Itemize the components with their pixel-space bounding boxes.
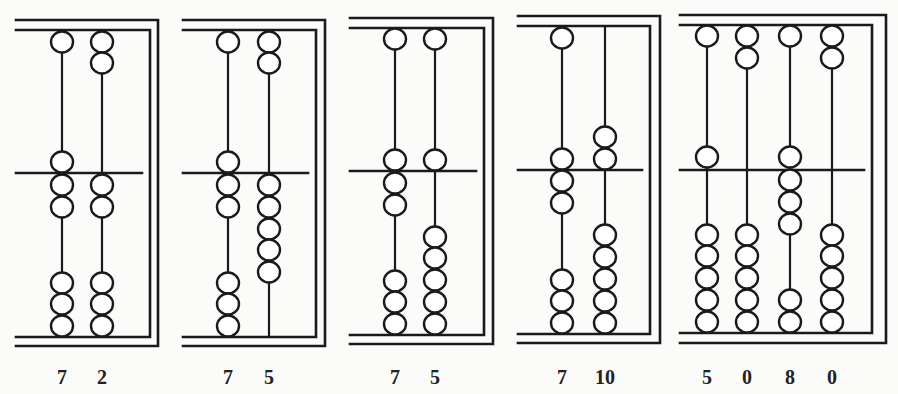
abacus-bead [384,150,406,171]
abacus-bead [258,175,280,196]
abacus-bead [594,225,616,246]
abacus-bead [779,214,801,235]
abacus-bead [821,246,843,267]
abacus-bead [736,26,758,47]
abacus-bead [258,53,280,74]
column-value-label: 7 [390,366,400,389]
abacus-frame [518,16,660,343]
abacus-bead [696,246,718,267]
abacus-bead [91,175,113,196]
abacus-bead [51,152,73,173]
abacus-column [551,26,573,334]
abacus-bead [551,149,573,170]
abacus-column [696,25,718,333]
abacus-column [821,25,843,333]
abacus-bead [779,170,801,191]
abacus-bead [217,152,239,173]
abacus-bead [217,316,239,337]
abacus-bead [384,271,406,292]
abacus-bead [91,197,113,218]
abacus-bead [779,290,801,311]
abacus-bead [551,193,573,214]
abacus-bead [424,227,446,248]
abacus-bead [696,225,718,246]
abacus-2 [183,20,325,346]
abacus-frame [183,20,325,346]
abacus-bead [696,26,718,47]
abacus-column [594,26,616,334]
abacus-column [779,25,801,333]
abacus-bead [551,313,573,334]
abacus-bead [384,173,406,194]
abacus-bead [821,290,843,311]
abacus-bead [736,290,758,311]
abacus-bead [51,175,73,196]
abacus-bead [779,147,801,168]
abacus-bead [696,312,718,333]
abacus-bead [594,313,616,334]
abacus-column [736,25,758,333]
abacus-bead [736,48,758,69]
abacus-bead [696,147,718,168]
abacus-bead [696,268,718,289]
column-value-label: 2 [97,366,107,389]
abacus-bead [91,53,113,74]
column-value-label: 7 [57,366,67,389]
abacus-bead [821,48,843,69]
abacus-bead [594,291,616,312]
abacus-bead [821,225,843,246]
abacus-bead [51,32,73,53]
abacus-bead [736,225,758,246]
abacus-column [424,28,446,335]
abacus-bead [91,316,113,337]
column-value-label: 7 [223,366,233,389]
column-value-label: 8 [785,366,795,389]
abacus-bead [258,219,280,240]
column-value-label: 10 [595,366,615,389]
abacus-bead [217,273,239,294]
abacus-bead [594,149,616,170]
abacus-frame [350,18,493,344]
column-value-label: 0 [742,366,752,389]
abacus-bead [424,150,446,171]
abacus-column [91,30,113,337]
abacus-bead [258,262,280,283]
abacus-bead [51,273,73,294]
abacus-bead [384,314,406,335]
abacus-bead [424,248,446,269]
abacus-bead [779,312,801,333]
abacus-bead [217,175,239,196]
abacus-bead [551,291,573,312]
abacus-1 [16,20,158,346]
abacus-5 [680,15,886,343]
abacus-bead [736,312,758,333]
abacus-bead [594,269,616,290]
abacus-frame [16,20,158,346]
abacus-bead [51,316,73,337]
abacus-bead [736,246,758,267]
abacus-bead [551,28,573,49]
abacus-bead [736,268,758,289]
abacus-bead [51,294,73,315]
abacus-bead [91,294,113,315]
abacus-column [217,30,239,337]
abacus-bead [551,171,573,192]
abacus-bead [424,314,446,335]
abacus-bead [217,32,239,53]
abacus-bead [821,268,843,289]
abacus-bead [821,312,843,333]
abacus-bead [384,195,406,216]
abacus-bead [424,270,446,291]
abacus-column [258,30,280,337]
abacus-bead [91,32,113,53]
abacus-bead [424,292,446,313]
column-value-label: 5 [702,366,712,389]
abacus-column [384,28,406,335]
abacus-column [51,30,73,337]
column-value-label: 5 [430,366,440,389]
abacus-bead [424,29,446,50]
abacus-bead [779,192,801,213]
abacus-bead [258,197,280,218]
abacus-bead [779,26,801,47]
abacus-3 [350,18,493,344]
